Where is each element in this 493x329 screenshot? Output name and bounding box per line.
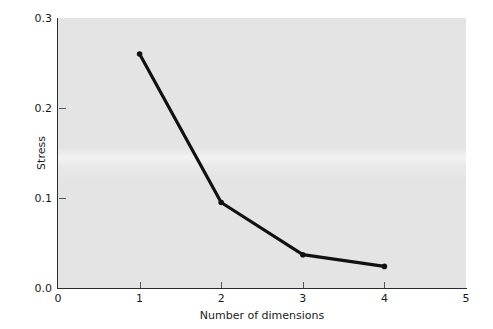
x-tick-label: 1: [136, 292, 143, 305]
y-tick-label: 0.3: [20, 12, 52, 25]
x-tick-label: 0: [55, 292, 62, 305]
data-point: [300, 252, 306, 258]
stress-markers: [137, 51, 387, 269]
data-point: [218, 200, 224, 206]
data-series-svg: [58, 18, 466, 288]
x-tick-mark: [221, 282, 222, 288]
y-tick-label: 0.2: [20, 102, 52, 115]
x-tick-label: 4: [381, 292, 388, 305]
x-tick-label: 3: [299, 292, 306, 305]
y-tick-mark: [59, 108, 66, 109]
x-tick-mark: [140, 282, 141, 288]
y-axis-title: Stress: [35, 118, 48, 188]
data-point: [382, 264, 388, 270]
y-tick-label: 0.0: [20, 282, 52, 295]
chart-figure: 012345 0.00.10.20.3 Number of dimensions…: [0, 0, 493, 329]
x-axis-title: Number of dimensions: [58, 309, 466, 322]
plot-area: [58, 18, 466, 288]
y-tick-mark: [59, 198, 66, 199]
x-tick-mark: [303, 282, 304, 288]
y-tick-label: 0.1: [20, 192, 52, 205]
x-tick-label: 5: [463, 292, 470, 305]
data-point: [137, 51, 143, 57]
x-axis-line: [58, 288, 467, 289]
stress-line: [140, 54, 385, 266]
x-tick-mark: [384, 282, 385, 288]
x-tick-label: 2: [218, 292, 225, 305]
